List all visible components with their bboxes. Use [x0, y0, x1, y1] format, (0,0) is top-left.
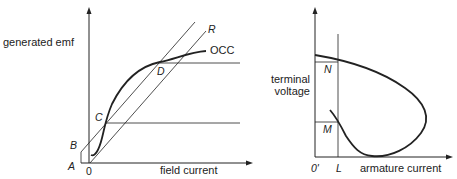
- point-label-a: A: [68, 161, 75, 172]
- point-label-d: D: [157, 66, 165, 77]
- x-axis-label-field-current: field current: [160, 165, 217, 176]
- diagram-canvas: [0, 0, 457, 179]
- y-axis-label-terminal: terminal: [268, 74, 310, 85]
- right-diagram: [313, 7, 454, 160]
- point-label-m: M: [323, 124, 332, 135]
- occ-curve: [91, 51, 206, 155]
- point-label-n: N: [324, 64, 332, 75]
- point-label-c: C: [95, 112, 103, 123]
- y-axis-arrow-icon-right: [313, 7, 318, 14]
- y-axis-label-voltage: voltage: [268, 86, 310, 97]
- left-diagram: [81, 7, 253, 166]
- field-resistance-line-r: [90, 31, 206, 163]
- x-axis-label-armature-current: armature current: [360, 163, 441, 174]
- y-axis-arrow-icon: [87, 7, 92, 14]
- y-axis-label-generated-emf: generated emf: [3, 37, 74, 48]
- x-axis-arrow-icon: [246, 161, 253, 166]
- x-axis-arrow-icon-right: [446, 155, 453, 160]
- origin-label-right: 0': [311, 163, 319, 174]
- line-through-b: [81, 22, 195, 152]
- curve-label-occ: OCC: [210, 45, 234, 56]
- point-label-b: B: [70, 140, 77, 151]
- origin-label-left: 0: [86, 166, 92, 177]
- line-label-r: R: [208, 24, 216, 35]
- point-label-l: L: [336, 163, 342, 174]
